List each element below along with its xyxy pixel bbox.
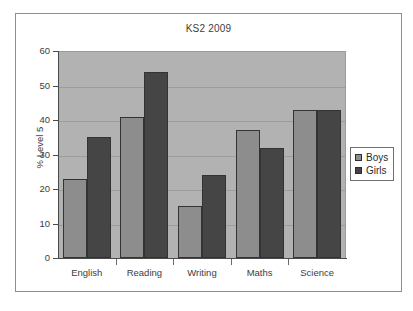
y-axis-tick: 40 bbox=[53, 120, 58, 121]
x-axis-label-science: Science bbox=[300, 267, 334, 278]
y-tick-mark bbox=[53, 224, 58, 225]
bar-boys-science[interactable] bbox=[293, 110, 317, 258]
bar-girls-science[interactable] bbox=[317, 110, 341, 258]
bar-girls-maths[interactable] bbox=[260, 148, 284, 258]
gridline bbox=[58, 87, 345, 88]
x-axis-label-reading: Reading bbox=[127, 267, 162, 278]
y-tick-mark bbox=[53, 120, 58, 121]
x-axis-tick bbox=[173, 259, 174, 265]
x-axis-label-english: English bbox=[71, 267, 102, 278]
legend-label-boys: Boys bbox=[366, 152, 388, 163]
legend-swatch-boys-icon bbox=[355, 154, 362, 161]
bar-girls-writing[interactable] bbox=[202, 175, 226, 258]
x-axis-label-writing: Writing bbox=[187, 267, 216, 278]
chart-legend: Boys Girls bbox=[350, 147, 394, 181]
y-tick-label: 20 bbox=[39, 183, 50, 194]
bar-girls-reading[interactable] bbox=[144, 72, 168, 258]
y-tick-mark bbox=[53, 189, 58, 190]
y-axis-tick: 20 bbox=[53, 189, 58, 190]
bar-boys-english[interactable] bbox=[63, 179, 87, 258]
y-tick-mark bbox=[53, 258, 58, 259]
x-axis-tick bbox=[116, 259, 117, 265]
x-axis-label-maths: Maths bbox=[247, 267, 273, 278]
bar-boys-writing[interactable] bbox=[178, 206, 202, 258]
y-axis-line bbox=[58, 51, 59, 259]
x-axis-line bbox=[58, 258, 347, 259]
bar-boys-reading[interactable] bbox=[120, 117, 144, 258]
x-axis-tick bbox=[288, 259, 289, 265]
y-axis-tick: 10 bbox=[53, 224, 58, 225]
y-tick-mark bbox=[53, 155, 58, 156]
chart-frame: KS2 2009 % Level 5 Boys Girls 0102030405… bbox=[15, 13, 402, 292]
bar-girls-english[interactable] bbox=[87, 137, 111, 258]
legend-item-boys[interactable]: Boys bbox=[355, 151, 388, 164]
y-tick-label: 60 bbox=[39, 45, 50, 56]
y-axis-tick: 0 bbox=[53, 258, 58, 259]
y-axis-tick: 50 bbox=[53, 86, 58, 87]
y-tick-label: 50 bbox=[39, 80, 50, 91]
y-axis-tick: 30 bbox=[53, 155, 58, 156]
y-tick-mark bbox=[53, 51, 58, 52]
y-tick-mark bbox=[53, 86, 58, 87]
y-tick-label: 0 bbox=[45, 252, 50, 263]
legend-swatch-girls-icon bbox=[355, 167, 362, 174]
legend-item-girls[interactable]: Girls bbox=[355, 164, 388, 177]
y-axis-tick: 60 bbox=[53, 51, 58, 52]
chart-title: KS2 2009 bbox=[16, 23, 401, 34]
plot-area bbox=[58, 51, 346, 258]
legend-label-girls: Girls bbox=[366, 165, 387, 176]
x-axis-tick bbox=[231, 259, 232, 265]
bar-boys-maths[interactable] bbox=[236, 130, 260, 258]
y-tick-label: 10 bbox=[39, 218, 50, 229]
y-tick-label: 40 bbox=[39, 114, 50, 125]
y-tick-label: 30 bbox=[39, 149, 50, 160]
